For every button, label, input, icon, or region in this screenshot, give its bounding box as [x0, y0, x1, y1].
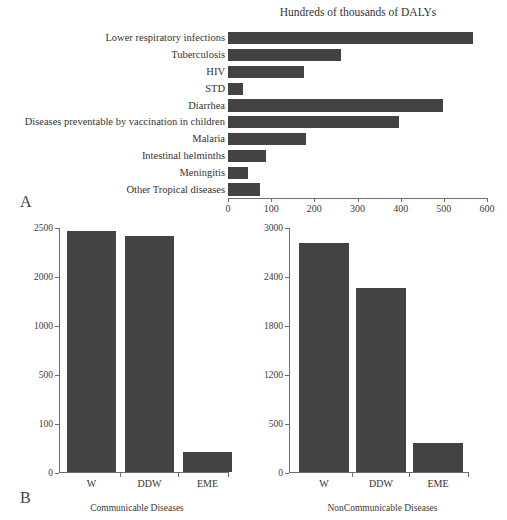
panel-a-plot-area: Lower respiratory infectionsTuberculosis… — [228, 30, 487, 198]
panel-b-y-tick-label: 0 — [278, 468, 283, 478]
panel-a-x-tick-label: 400 — [393, 203, 408, 214]
panel-a-category-label: Diseases preventable by vaccination in c… — [25, 117, 225, 128]
panel-a-x-tick-label: 600 — [480, 203, 495, 214]
panel-b-bar — [67, 231, 116, 472]
panel-b-y-tick-label: 1800 — [264, 321, 283, 331]
panel-b-y-tick-label: 1000 — [34, 321, 53, 331]
panel-b-y-tick — [55, 326, 59, 327]
panel-a-title: Hundreds of thousands of DALYs — [227, 6, 489, 18]
panel-a-bar-row: Intestinal helminths — [228, 148, 487, 165]
panel-b-x-tick — [352, 473, 353, 477]
panel-b-bar — [125, 236, 174, 472]
panel-a-x-tick — [401, 198, 402, 202]
panel-b-letter: B — [20, 489, 31, 507]
panel-b-x-tick-end — [468, 473, 469, 477]
panel-a-bar — [228, 32, 473, 44]
panel-a-category-label: Malaria — [192, 134, 225, 145]
panel-b-right-plot-area: 05001200180024003000WDDWEME — [289, 228, 469, 473]
panel-a-x-tick — [228, 198, 229, 202]
panel-a-letter: A — [20, 193, 32, 211]
panel-b-y-tick-label: 500 — [39, 370, 53, 380]
panel-b-x-category-label: DDW — [369, 478, 393, 489]
panel-a-bar-row: Other Tropical diseases — [228, 181, 487, 198]
panel-a-category-label: Diarrhea — [188, 100, 225, 111]
panel-a-x-tick — [487, 198, 488, 202]
panel-b-right-x-axis-line — [289, 472, 469, 473]
panel-a-x-tick-label: 500 — [436, 203, 451, 214]
panel-b-left-caption: Communicable Diseases — [12, 503, 262, 513]
panel-a-bar-row: Malaria — [228, 131, 487, 148]
panel-a-bar — [228, 99, 443, 111]
panel-b-y-tick — [55, 424, 59, 425]
panel-a-bar — [228, 49, 341, 61]
panel-b-y-tick-label: 1200 — [264, 370, 283, 380]
panel-b-right-caption: NonCommunicable Diseases — [258, 503, 507, 513]
panel-b-bar — [356, 288, 406, 472]
panel-a-x-tick — [314, 198, 315, 202]
panel-b-x-category-label: W — [87, 478, 96, 489]
panel-a-bar — [228, 183, 260, 195]
panel-b-communicable-chart: 0100500100020002500WDDWEME Communicable … — [12, 215, 262, 520]
panel-b-left-x-axis-line — [59, 472, 229, 473]
panel-b-y-tick-label: 2400 — [264, 272, 283, 282]
panel-a-category-label: Tuberculosis — [171, 50, 225, 61]
panel-b-y-tick — [55, 277, 59, 278]
panel-b-x-tick — [409, 473, 410, 477]
panel-b-x-category-label: EME — [197, 478, 218, 489]
panel-a-x-tick — [358, 198, 359, 202]
panel-b-y-tick-label: 2500 — [34, 223, 53, 233]
panel-a-bar-row: Meningitis — [228, 164, 487, 181]
panel-b-y-tick — [285, 277, 289, 278]
panel-b-y-tick — [55, 228, 59, 229]
panel-a-x-tick — [444, 198, 445, 202]
panel-b-y-tick — [55, 473, 59, 474]
panel-b-right-y-axis-line — [289, 228, 290, 473]
panel-b-x-tick-end — [228, 473, 229, 477]
panel-a-bar — [228, 133, 306, 145]
panel-a-bar-row: HIV — [228, 64, 487, 81]
panel-b-y-tick-label: 100 — [39, 419, 53, 429]
panel-a-category-label: Meningitis — [179, 168, 225, 179]
panel-b-y-tick — [285, 375, 289, 376]
panel-a-bar-row: Diarrhea — [228, 97, 487, 114]
panel-a-category-label: STD — [205, 84, 225, 95]
panel-a-category-label: Lower respiratory infections — [105, 33, 225, 44]
panel-a-category-label: Intestinal helminths — [142, 151, 225, 162]
panel-a-x-tick-label: 300 — [350, 203, 365, 214]
panel-b-x-category-label: W — [319, 478, 328, 489]
panel-a-category-label: HIV — [206, 67, 225, 78]
panel-b-left-plot-area: 0100500100020002500WDDWEME — [59, 228, 229, 473]
panel-b-left-y-axis-line — [59, 228, 60, 473]
panel-b-bar — [413, 443, 463, 471]
panel-b-noncommunicable-chart: 05001200180024003000WDDWEME NonCommunica… — [258, 215, 507, 520]
panel-b-x-category-label: EME — [427, 478, 448, 489]
panel-a-bar-row: Tuberculosis — [228, 47, 487, 64]
panel-b-bar — [183, 452, 232, 472]
panel-a-bar-row: Diseases preventable by vaccination in c… — [228, 114, 487, 131]
panel-b-y-tick-label: 2000 — [34, 272, 53, 282]
panel-b-x-tick — [120, 473, 121, 477]
panel-b-y-tick — [285, 424, 289, 425]
panel-a-bar — [228, 150, 266, 162]
panel-b-y-tick — [55, 375, 59, 376]
panel-a-bar — [228, 66, 304, 78]
panel-b-y-tick — [285, 326, 289, 327]
panel-a-bar — [228, 116, 399, 128]
panel-b-y-tick-label: 3000 — [264, 223, 283, 233]
panel-b-x-tick — [178, 473, 179, 477]
panel-a-bar-row: STD — [228, 80, 487, 97]
panel-b-y-tick — [285, 228, 289, 229]
panel-a-x-tick — [271, 198, 272, 202]
panel-a-x-tick-label: 100 — [264, 203, 279, 214]
panel-b-x-category-label: DDW — [138, 478, 162, 489]
panel-a-category-label: Other Tropical diseases — [126, 184, 225, 195]
panel-a-bar — [228, 167, 248, 179]
panel-a-x-tick-label: 200 — [307, 203, 322, 214]
panel-b-bar — [299, 243, 349, 472]
panel-a-daly-bar-chart: Hundreds of thousands of DALYs Lower res… — [0, 0, 507, 215]
panel-a-x-tick-label: 0 — [226, 203, 231, 214]
panel-b-y-tick — [285, 473, 289, 474]
panel-a-bar — [228, 83, 243, 95]
panel-a-bar-row: Lower respiratory infections — [228, 30, 487, 47]
panel-b-y-tick-label: 500 — [269, 419, 283, 429]
